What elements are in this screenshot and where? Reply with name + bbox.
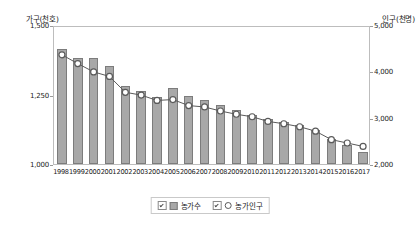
line-marker-2012 — [281, 121, 287, 127]
line-marker-2010 — [249, 114, 255, 120]
x-axis-label-2016: 2016 — [338, 168, 354, 176]
legend-label: 농가인구 — [235, 200, 262, 211]
line-marker-2008 — [217, 108, 223, 114]
x-axis-label-2009: 2009 — [227, 168, 243, 176]
line-marker-2001 — [106, 73, 112, 79]
x-axis-label-2014: 2014 — [307, 168, 323, 176]
x-axis-label-2015: 2015 — [322, 168, 338, 176]
chart-legend: 농가수농가인구 — [151, 197, 270, 214]
line-marker-2002 — [122, 89, 128, 95]
legend-item-농가인구[interactable]: 농가인구 — [213, 200, 262, 211]
line-marker-2015 — [328, 137, 334, 143]
line-marker-2003 — [138, 92, 144, 98]
x-axis-tick-labels: 1998199920002001200220032004200520062007… — [53, 168, 370, 182]
line-marker-1998 — [59, 52, 65, 58]
x-axis-label-1998: 1998 — [53, 168, 69, 176]
x-axis-label-2003: 2003 — [132, 168, 148, 176]
right-axis-tick-4000: 4,000 — [374, 68, 416, 76]
x-axis-label-2007: 2007 — [196, 168, 212, 176]
legend-item-농가수[interactable]: 농가수 — [158, 200, 201, 211]
line-marker-2007 — [202, 104, 208, 110]
legend-checkbox-icon[interactable] — [158, 201, 167, 210]
right-axis-tick-3000: 3,000 — [374, 115, 416, 123]
legend-label: 농가수 — [181, 200, 201, 211]
x-axis-label-2010: 2010 — [243, 168, 259, 176]
left-axis-tick-1500: 1,500 — [5, 22, 49, 30]
left-axis-tick-1000: 1,000 — [5, 161, 49, 169]
line-marker-2009 — [233, 111, 239, 117]
line-marker-2017 — [360, 143, 366, 149]
left-axis-tick-1250: 1,250 — [5, 92, 49, 100]
legend-checkbox-icon[interactable] — [213, 201, 222, 210]
x-axis-label-2006: 2006 — [180, 168, 196, 176]
right-axis-tick-2000: 2,000 — [374, 161, 416, 169]
x-axis-label-2013: 2013 — [291, 168, 307, 176]
line-path-svg — [54, 27, 371, 166]
legend-circle-marker-icon — [225, 202, 232, 209]
legend-bar-swatch-icon — [170, 202, 178, 210]
line-series-농가인구 — [54, 27, 369, 164]
x-axis-label-2002: 2002 — [116, 168, 132, 176]
line-marker-1999 — [75, 61, 81, 67]
line-marker-2006 — [186, 103, 192, 109]
farm-household-population-chart: 가구(천호) 인구(천명) 1,5001,2501,000 5,0004,000… — [0, 0, 420, 228]
x-axis-label-2001: 2001 — [101, 168, 117, 176]
line-marker-2000 — [91, 69, 97, 75]
x-axis-label-2017: 2017 — [354, 168, 370, 176]
x-axis-label-1999: 1999 — [69, 168, 85, 176]
left-axis-tick-mark — [50, 165, 53, 166]
plot-area — [53, 26, 370, 165]
right-axis-tick-5000: 5,000 — [374, 22, 416, 30]
line-marker-2004 — [154, 97, 160, 103]
x-axis-label-2005: 2005 — [164, 168, 180, 176]
x-axis-label-2008: 2008 — [212, 168, 228, 176]
line-marker-2016 — [344, 140, 350, 146]
line-marker-2005 — [170, 97, 176, 103]
x-axis-label-2011: 2011 — [259, 168, 275, 176]
x-axis-label-2000: 2000 — [85, 168, 101, 176]
x-axis-label-2012: 2012 — [275, 168, 291, 176]
line-marker-2014 — [313, 128, 319, 134]
line-marker-2013 — [297, 124, 303, 130]
x-axis-label-2004: 2004 — [148, 168, 164, 176]
line-marker-2011 — [265, 118, 271, 124]
